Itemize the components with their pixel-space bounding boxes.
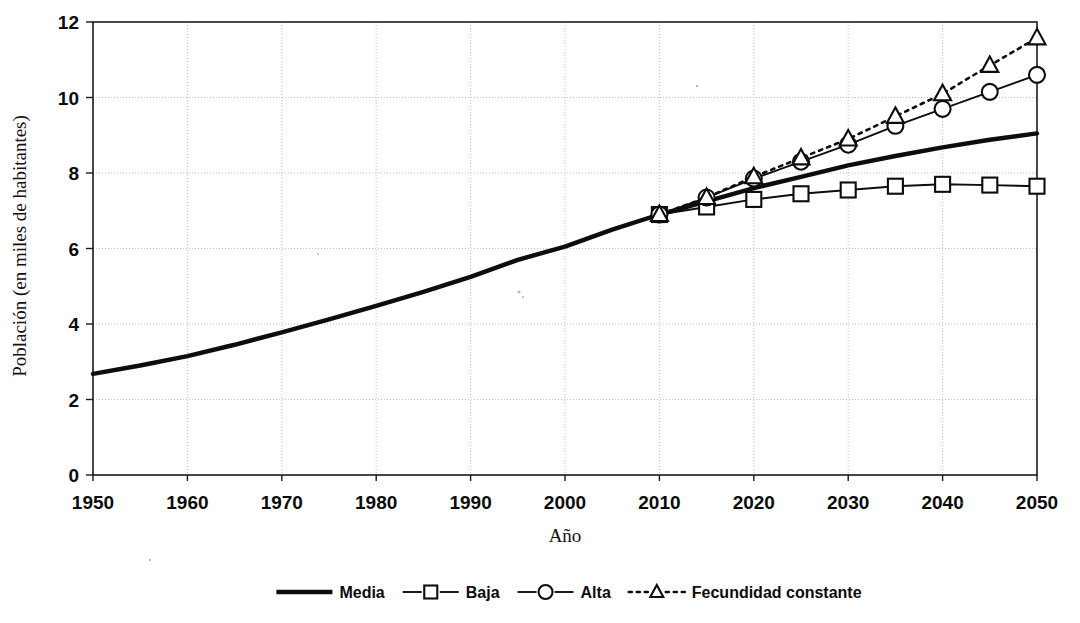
data-point-baja: [935, 177, 950, 192]
x-axis-tick-label: 1980: [355, 492, 397, 513]
data-point-fecundidad-constante: [934, 85, 951, 101]
x-axis-tick-label: 2000: [544, 492, 586, 513]
data-point-fecundidad-constante: [981, 56, 998, 72]
data-point-baja: [1030, 179, 1045, 194]
y-axis-title: Población (en miles de habitantes): [9, 115, 31, 377]
scan-artifact: [522, 296, 524, 298]
x-axis-tick-labels: 1950196019701980199020002010202020302040…: [72, 492, 1058, 513]
data-point-alta: [1029, 67, 1045, 83]
legend-item-media[interactable]: Media: [276, 584, 384, 601]
chart-canvas: 024681012 195019601970198019902000201020…: [0, 0, 1080, 623]
x-axis-tick-label: 1990: [449, 492, 491, 513]
x-axis-tick-label: 1960: [166, 492, 208, 513]
data-point-fecundidad-constante: [1029, 29, 1046, 45]
y-axis-tick-label: 8: [68, 163, 79, 184]
data-point-baja: [794, 186, 809, 201]
legend-item-label: Fecundidad constante: [692, 584, 862, 601]
y-axis-tick-label: 6: [68, 239, 79, 260]
scan-artifact: [149, 559, 151, 561]
x-axis-title: Año: [549, 525, 582, 546]
x-axis-tick-label: 2030: [827, 492, 869, 513]
y-axis-tick-label: 12: [58, 12, 79, 33]
data-point-fecundidad-constante: [840, 130, 857, 146]
legend-item-fecundidad-constante[interactable]: Fecundidad constante: [629, 584, 862, 601]
x-axis-tick-label: 1970: [261, 492, 303, 513]
data-point-baja: [982, 178, 997, 193]
scan-artifact: [517, 290, 520, 293]
data-point-baja: [746, 192, 761, 207]
legend-item-label: Media: [339, 584, 384, 601]
legend-marker-triangle: [650, 585, 663, 597]
chart-legend: MediaBajaAltaFecundidad constante: [276, 584, 861, 601]
legend-marker-square: [424, 586, 437, 599]
data-point-baja: [888, 179, 903, 194]
legend-item-baja[interactable]: Baja: [403, 584, 500, 601]
data-point-alta: [982, 84, 998, 100]
legend-item-label: Alta: [581, 584, 611, 601]
scan-artifact: [696, 85, 698, 87]
x-axis-tick-label: 1950: [72, 492, 114, 513]
y-axis-tick-label: 10: [58, 88, 79, 109]
scan-artifact: [961, 502, 964, 505]
legend-item-label: Baja: [466, 584, 500, 601]
scan-artifact: [317, 253, 319, 255]
y-axis-tick-labels: 024681012: [58, 12, 80, 486]
axis-ticks: [86, 22, 1037, 481]
data-markers-layer: [651, 29, 1046, 223]
data-point-baja: [841, 182, 856, 197]
y-axis-tick-label: 4: [68, 314, 79, 335]
y-axis-tick-label: 2: [68, 390, 79, 411]
legend-item-alta[interactable]: Alta: [518, 584, 611, 601]
y-axis-tick-label: 0: [68, 465, 79, 486]
data-point-fecundidad-constante: [887, 107, 904, 123]
x-axis-tick-label: 2020: [733, 492, 775, 513]
legend-marker-circle: [539, 585, 553, 599]
x-axis-tick-label: 2010: [638, 492, 680, 513]
x-axis-tick-label: 2040: [921, 492, 963, 513]
scan-speckle: [149, 85, 963, 561]
data-point-alta: [935, 101, 951, 117]
x-axis-tick-label: 2050: [1016, 492, 1058, 513]
population-projection-chart: 024681012 195019601970198019902000201020…: [0, 0, 1080, 623]
